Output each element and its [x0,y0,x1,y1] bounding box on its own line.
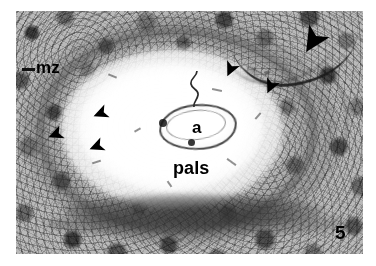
label-pals: pals [173,159,209,177]
marginal-sinus-arc [242,57,348,187]
mz-leader-dash [22,68,35,71]
figure-root: mz a pals 5 [0,0,376,266]
reticular-fibre-fragment [264,71,270,74]
label-a: a [192,119,202,136]
micrograph-plate [16,11,363,254]
reticular-fibre-squiggle [184,71,210,107]
capsular-dark-band-lower [46,211,346,237]
label-mz: mz [36,59,60,76]
figure-number: 5 [335,223,346,242]
arteriole-mural-cell-left [159,119,167,127]
arteriole-mural-cell-bottom [188,139,195,146]
